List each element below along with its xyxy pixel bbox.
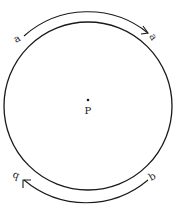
top-arc-end-label: a [147,31,160,42]
top-arc-start-label: a [11,32,22,45]
center-point-dot [87,99,90,102]
bottom-arc-arrow [24,180,148,203]
center-point-label: P [85,105,92,116]
bottom-arc-start-label: b [146,170,157,183]
bottom-arc-end-label: b [11,170,21,183]
circle-diagram: P a a b b [0,0,176,212]
